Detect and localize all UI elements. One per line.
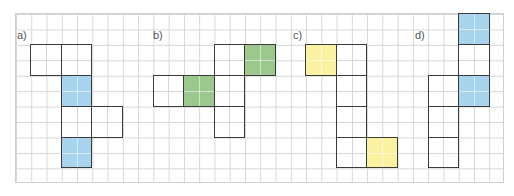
figure-label: d) [415, 29, 425, 41]
net-square-white [30, 44, 62, 76]
net-square-white [214, 44, 246, 76]
net-square-blue [61, 137, 93, 169]
net-square-white [428, 137, 460, 169]
net-square-white [336, 44, 368, 76]
net-square-yellow [366, 137, 398, 169]
net-square-white [336, 75, 368, 107]
net-square-green [244, 44, 276, 76]
net-square-white [61, 44, 93, 76]
net-square-green [183, 75, 215, 107]
net-square-white [428, 75, 460, 107]
net-square-white [214, 106, 246, 138]
net-square-white [214, 75, 246, 107]
net-square-white [153, 75, 185, 107]
net-square-white [91, 106, 123, 138]
net-square-blue [458, 75, 490, 107]
net-square-white [336, 137, 368, 169]
figure-label: c) [293, 29, 302, 41]
figure-label: a) [17, 29, 27, 41]
net-square-white [458, 44, 490, 76]
net-square-white [428, 106, 460, 138]
net-square-yellow [305, 44, 337, 76]
net-square-blue [458, 13, 490, 45]
net-square-white [336, 106, 368, 138]
net-square-blue [61, 75, 93, 107]
net-square-white [61, 106, 93, 138]
figure-label: b) [153, 29, 163, 41]
